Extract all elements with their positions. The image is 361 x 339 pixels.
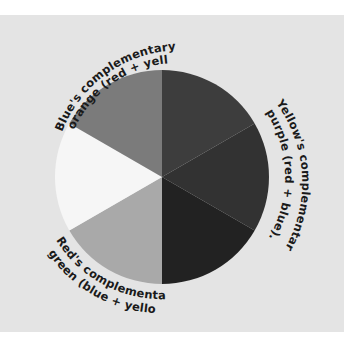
- color-wheel-diagram: Blue's complementary is orange (red + ye…: [0, 0, 361, 339]
- wheel-slices: [55, 70, 269, 284]
